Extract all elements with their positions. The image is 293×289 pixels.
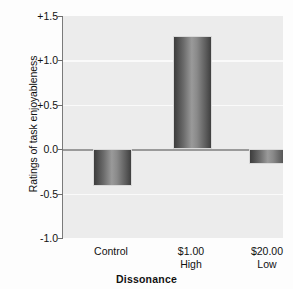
x-tick-line-2: Low xyxy=(251,258,283,271)
x-axis-tick-label: $20.00Low xyxy=(251,245,283,271)
x-axis-title: Dissonance xyxy=(0,273,293,285)
bar xyxy=(173,36,212,149)
bar xyxy=(249,149,284,164)
y-axis-tick-mark xyxy=(57,60,63,61)
x-tick-line-1: Control xyxy=(94,245,128,257)
y-axis-tick-labels: +1.5+1.0+0.50.0-0.5-1.0 xyxy=(20,0,58,289)
y-axis-tick-label: +1.0 xyxy=(22,54,58,66)
x-tick-line-1: $1.00 xyxy=(178,245,204,257)
y-axis-tick-mark xyxy=(57,194,63,195)
y-axis-tick-mark xyxy=(57,238,63,239)
plot-area xyxy=(62,16,283,238)
x-axis-tick-label: Control xyxy=(94,245,128,258)
x-tick-line-1: $20.00 xyxy=(251,245,283,257)
y-axis-tick-label: -1.0 xyxy=(22,232,58,244)
y-axis-tick-label: +0.5 xyxy=(22,99,58,111)
x-tick-line-2: High xyxy=(178,258,204,271)
bar-chart-figure: Ratings of task enjoyableness +1.5+1.0+0… xyxy=(0,0,293,289)
bar xyxy=(93,149,132,185)
y-axis-tick-label: +1.5 xyxy=(22,10,58,22)
y-axis-tick-mark xyxy=(57,149,63,150)
y-axis-tick-mark xyxy=(57,16,63,17)
y-axis-tick-mark xyxy=(57,105,63,106)
x-axis-tick-label: $1.00High xyxy=(178,245,204,271)
y-axis-tick-label: 0.0 xyxy=(22,143,58,155)
y-axis-tick-label: -0.5 xyxy=(22,188,58,200)
gridline xyxy=(63,194,283,196)
